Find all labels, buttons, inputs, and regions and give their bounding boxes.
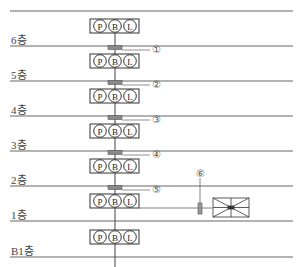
svg-text:B: B [112,233,118,243]
floor-label-3: 3층 [11,139,27,151]
floor-label-1: 1층 [11,209,27,221]
svg-text:L: L [127,127,133,137]
svg-text:L: L [127,22,133,32]
marker-3: ③ [150,115,162,127]
svg-text:P: P [97,162,102,172]
svg-text:P: P [97,197,102,207]
svg-text:P: P [97,22,102,32]
marker-4: ④ [150,150,162,162]
svg-text:B: B [112,197,118,207]
svg-text:L: L [127,233,133,243]
marker-5: ⑤ [150,185,162,197]
floor-label-6: 6층 [11,34,27,46]
marker-6: ⑥ [194,169,206,181]
svg-text:P: P [97,233,102,243]
distribution-box-icon [213,198,249,217]
marker-2: ② [150,80,162,92]
svg-text:P: P [97,92,102,102]
svg-text:B: B [112,92,118,102]
sleeve-6 [198,203,202,214]
svg-text:L: L [127,92,133,102]
floor-label-b1: B1층 [11,245,34,257]
svg-text:L: L [127,162,133,172]
marker-1: ① [150,45,162,57]
floor-label-4: 4층 [11,104,27,116]
svg-text:B: B [112,57,118,67]
svg-text:P: P [97,127,102,137]
riser-diagram: PBL PBL PBL PBL PBL PBL PBL [0,0,299,267]
floor-label-2: 2층 [11,174,27,186]
svg-text:P: P [97,57,102,67]
svg-text:B: B [112,22,118,32]
svg-text:L: L [127,57,133,67]
svg-text:L: L [127,197,133,207]
floor-label-5: 5층 [11,69,27,81]
svg-text:B: B [112,162,118,172]
svg-text:B: B [112,127,118,137]
